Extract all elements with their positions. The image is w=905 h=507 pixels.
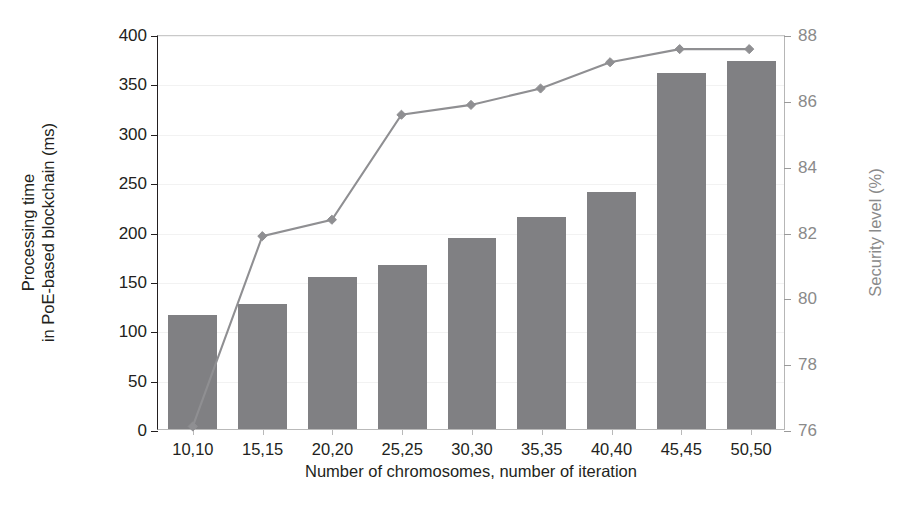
y-axis-left-tick-label: 200: [119, 224, 147, 244]
x-axis-tick-label: 40,40: [591, 440, 632, 459]
security-level-line-series: 10,10: 76.115,15: 81.920,20: 82.425,25: …: [158, 36, 784, 430]
plot-area: 0501001502002503003504007678808284868810…: [157, 35, 785, 430]
x-axis-tick: [751, 429, 752, 435]
x-axis-tick-label: 30,30: [451, 440, 492, 459]
y-axis-left-tick: [151, 184, 158, 185]
security-level-marker: 15,15: 81.9: [258, 232, 267, 241]
security-level-marker: 50,50: 87.6: [745, 45, 754, 54]
x-axis-tick: [472, 429, 473, 435]
x-axis-tick: [542, 429, 543, 435]
y-axis-right-tick: [784, 234, 791, 235]
y-axis-left-tick: [151, 332, 158, 333]
y-axis-right-tick-label: 82: [798, 224, 817, 244]
x-axis-tick-label: 10,10: [172, 440, 213, 459]
security-level-marker: 10,10: 76.1: [188, 422, 197, 431]
y-axis-right-title: Security level (%): [862, 35, 888, 430]
y-axis-left-tick: [151, 36, 158, 37]
x-axis-tick: [332, 429, 333, 435]
y-axis-right-tick: [784, 102, 791, 103]
y-axis-left-tick-label: 350: [119, 75, 147, 95]
x-axis-tick: [263, 429, 264, 435]
security-level-marker: 30,30: 85.9: [466, 100, 475, 109]
y-axis-right-tick: [784, 168, 791, 169]
x-axis-tick-label: 45,45: [661, 440, 702, 459]
y-axis-left-title-line2: in PoE-based blockchain (ms): [38, 123, 58, 342]
x-axis-tick-label: 25,25: [382, 440, 423, 459]
x-axis-tick-label: 15,15: [242, 440, 283, 459]
y-axis-right-tick: [784, 299, 791, 300]
y-axis-right-tick-label: 76: [798, 421, 817, 441]
y-axis-right-tick-label: 84: [798, 158, 817, 178]
y-axis-left-tick: [151, 382, 158, 383]
y-axis-left-tick-label: 300: [119, 125, 147, 145]
security-level-marker: 40,40: 87.2: [606, 58, 615, 67]
y-axis-right-tick-label: 78: [798, 355, 817, 375]
security-level-marker: 35,35: 86.4: [536, 84, 545, 93]
y-axis-left-tick-label: 50: [128, 372, 147, 392]
y-axis-left-tick: [151, 135, 158, 136]
y-axis-left-tick: [151, 234, 158, 235]
y-axis-right-tick-label: 88: [798, 26, 817, 46]
x-axis-title: Number of chromosomes, number of iterati…: [157, 462, 785, 481]
x-axis-tick: [612, 429, 613, 435]
y-axis-left-tick: [151, 283, 158, 284]
y-axis-right-tick: [784, 365, 791, 366]
y-axis-left-tick-label: 100: [119, 322, 147, 342]
x-axis-tick: [681, 429, 682, 435]
y-axis-left-tick-label: 400: [119, 26, 147, 46]
y-axis-left-title-line1: Processing time: [18, 174, 38, 291]
x-axis-tick-label: 35,35: [521, 440, 562, 459]
y-axis-left-tick-label: 250: [119, 174, 147, 194]
y-axis-right-tick: [784, 36, 791, 37]
y-axis-left-title: Processing time in PoE-based blockchain …: [10, 35, 66, 430]
y-axis-left-tick-label: 0: [138, 421, 147, 441]
y-axis-left-tick-label: 150: [119, 273, 147, 293]
x-axis-tick-label: 50,50: [730, 440, 771, 459]
y-axis-right-tick: [784, 431, 791, 432]
x-axis-tick-label: 20,20: [312, 440, 353, 459]
y-axis-left-tick: [151, 431, 158, 432]
y-axis-left-tick: [151, 85, 158, 86]
x-axis-tick: [402, 429, 403, 435]
chart-figure: Processing time in PoE-based blockchain …: [0, 0, 905, 507]
y-axis-right-tick-label: 86: [798, 92, 817, 112]
y-axis-right-tick-label: 80: [798, 289, 817, 309]
security-level-marker: 45,45: 87.6: [675, 45, 684, 54]
